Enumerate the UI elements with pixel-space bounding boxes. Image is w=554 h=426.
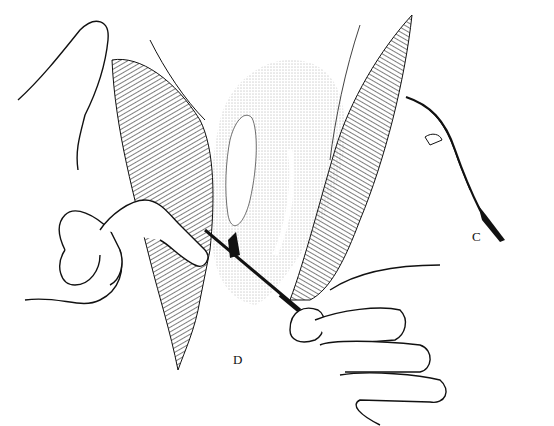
label-c: C (472, 229, 481, 245)
label-d: D (233, 352, 242, 368)
illustration-drawing (0, 0, 554, 426)
instrument-c (406, 97, 505, 242)
surgical-illustration: C D (0, 0, 554, 426)
